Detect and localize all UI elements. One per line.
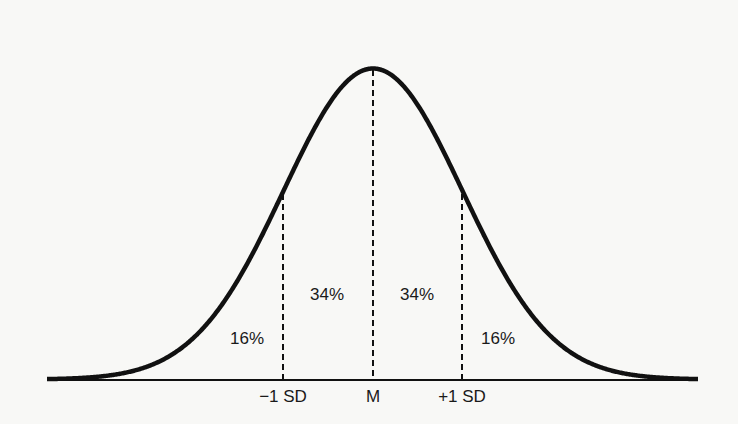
tick-label-minus-1-sd: −1 SD bbox=[259, 387, 307, 406]
tick-label-plus-1-sd: +1 SD bbox=[438, 387, 486, 406]
pct-right-tail-label: 16% bbox=[481, 329, 515, 348]
pct-left-center-label: 34% bbox=[310, 285, 344, 304]
normal-distribution-chart: 16% 34% 34% 16% −1 SD M +1 SD bbox=[0, 0, 738, 424]
tick-label-mean: M bbox=[366, 387, 380, 406]
pct-left-tail-label: 16% bbox=[230, 329, 264, 348]
pct-right-center-label: 34% bbox=[400, 285, 434, 304]
